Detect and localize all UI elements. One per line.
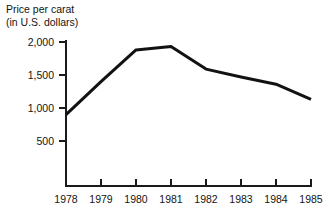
x-tick-label-1981: 1981 xyxy=(159,193,183,205)
price-per-carat-line xyxy=(66,47,311,115)
x-tick-label-1980: 1980 xyxy=(124,193,148,205)
y-axis: 2,000 1,500 1,000 500 xyxy=(28,36,66,187)
x-tick-label-1979: 1979 xyxy=(89,193,113,205)
x-axis-ticks xyxy=(66,179,311,186)
y-axis-ticks xyxy=(59,42,66,141)
x-axis: 1978 1979 1980 1981 1982 1983 1984 1985 xyxy=(54,179,323,205)
x-axis-labels: 1978 1979 1980 1981 1982 1983 1984 1985 xyxy=(54,193,323,205)
x-tick-label-1985: 1985 xyxy=(299,193,323,205)
y-tick-label-1000: 1,000 xyxy=(28,102,54,114)
y-tick-label-2000: 2,000 xyxy=(28,36,54,48)
x-tick-label-1983: 1983 xyxy=(229,193,253,205)
x-tick-label-1978: 1978 xyxy=(54,193,78,205)
y-axis-labels: 2,000 1,500 1,000 500 xyxy=(28,36,54,147)
line-chart: Price per carat (in U.S. dollars) 2,000 … xyxy=(0,0,329,213)
x-tick-label-1982: 1982 xyxy=(194,193,218,205)
chart-plot-area: 2,000 1,500 1,000 500 1978 1979 19 xyxy=(0,0,329,213)
x-tick-label-1984: 1984 xyxy=(264,193,288,205)
y-tick-label-1500: 1,500 xyxy=(28,69,54,81)
y-tick-label-500: 500 xyxy=(36,135,54,147)
